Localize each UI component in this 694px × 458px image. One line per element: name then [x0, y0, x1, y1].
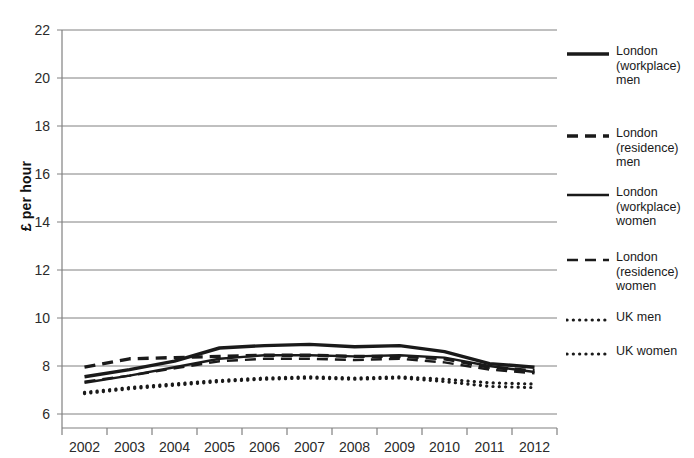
legend-key-icon	[566, 187, 610, 203]
chart-legend: London (workplace) menLondon (residence)…	[566, 22, 694, 402]
x-axis-tick-label: 2008	[331, 440, 379, 454]
legend-label: UK women	[616, 344, 677, 359]
y-axis-tick-label: 8	[16, 359, 50, 373]
y-axis-tick-label: 12	[16, 263, 50, 277]
legend-key-icon	[566, 312, 610, 328]
y-axis-tick-label: 20	[16, 71, 50, 85]
y-axis-tick-label: 6	[16, 407, 50, 421]
y-axis-title: £ per hour	[18, 136, 34, 256]
y-axis-tick-label: 16	[16, 167, 50, 181]
legend-label: London (workplace) men	[616, 44, 681, 88]
legend-label: London (workplace) women	[616, 185, 681, 229]
x-axis-tick-label: 2005	[196, 440, 244, 454]
y-axis-ticks	[57, 30, 62, 414]
legend-entry[interactable]: UK men	[566, 310, 694, 328]
legend-label: London (residence) men	[616, 126, 679, 170]
legend-entry[interactable]: London (workplace) women	[566, 185, 694, 229]
y-axis-tick-label: 10	[16, 311, 50, 325]
x-axis-tick-label: 2010	[421, 440, 469, 454]
x-axis-tick-label: 2011	[466, 440, 514, 454]
legend-key-icon	[566, 128, 610, 144]
legend-entry[interactable]: London (residence) women	[566, 250, 694, 294]
legend-label: UK men	[616, 310, 661, 325]
x-axis-tick-label: 2002	[61, 440, 109, 454]
legend-label: London (residence) women	[616, 250, 679, 294]
y-axis-tick-label: 14	[16, 215, 50, 229]
x-axis-tick-label: 2006	[241, 440, 289, 454]
y-axis-tick-label: 18	[16, 119, 50, 133]
line-chart: £ per hour 6810121416182022 200220032004…	[0, 0, 694, 458]
x-axis-tick-label: 2012	[511, 440, 559, 454]
x-axis-tick-label: 2003	[106, 440, 154, 454]
x-axis-tick-label: 2009	[376, 440, 424, 454]
legend-entry[interactable]: UK women	[566, 344, 694, 362]
legend-key-icon	[566, 346, 610, 362]
legend-entry[interactable]: London (workplace) men	[566, 44, 694, 88]
y-axis-tick-label: 22	[16, 23, 50, 37]
legend-entry[interactable]: London (residence) men	[566, 126, 694, 170]
x-axis-ticks	[62, 428, 557, 435]
x-axis-tick-label: 2004	[151, 440, 199, 454]
data-series-group	[85, 344, 535, 393]
legend-key-icon	[566, 252, 610, 268]
x-axis-tick-label: 2007	[286, 440, 334, 454]
legend-key-icon	[566, 46, 610, 62]
